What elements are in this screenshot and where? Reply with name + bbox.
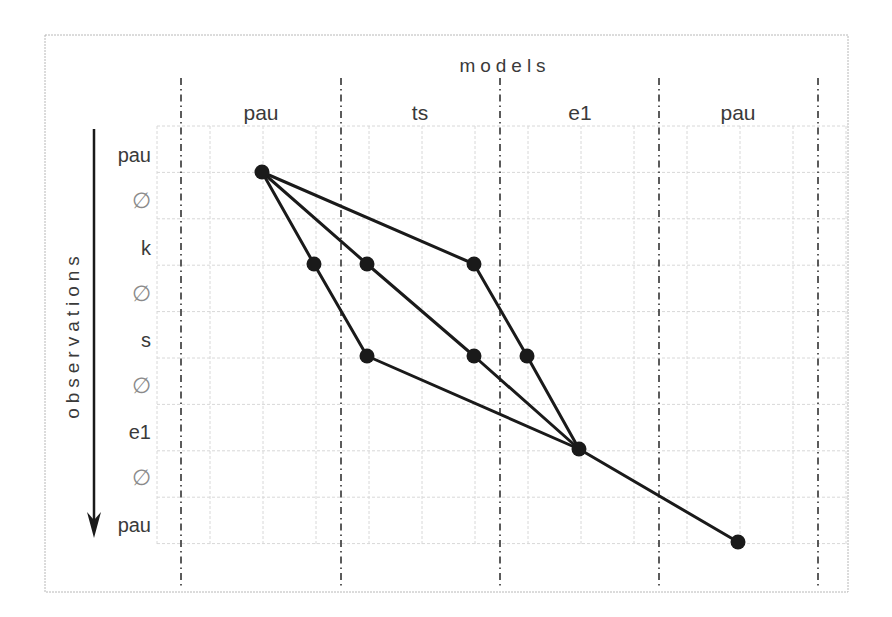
lattice-edge bbox=[527, 356, 579, 449]
row-label-empty: ∅ bbox=[132, 373, 151, 398]
column-label: e1 bbox=[568, 101, 591, 124]
y-axis-arrow bbox=[87, 129, 101, 538]
row-labels: pau∅k∅s∅e1∅pau bbox=[118, 144, 152, 536]
row-label-empty: ∅ bbox=[132, 188, 151, 213]
lattice-edge bbox=[262, 172, 474, 264]
lattice-node bbox=[731, 535, 746, 550]
y-axis-title: observations bbox=[62, 251, 83, 419]
lattice-edge bbox=[262, 172, 314, 264]
row-label: k bbox=[141, 237, 152, 259]
lattice-node bbox=[255, 165, 270, 180]
column-label: pau bbox=[720, 101, 755, 124]
column-label: pau bbox=[243, 101, 278, 124]
lattice-edge bbox=[367, 356, 579, 449]
row-label-empty: ∅ bbox=[132, 465, 151, 490]
row-label: pau bbox=[118, 144, 151, 166]
lattice-node bbox=[520, 349, 535, 364]
row-label: e1 bbox=[129, 421, 151, 443]
lattice-node bbox=[307, 257, 322, 272]
lattice-edge bbox=[262, 172, 367, 264]
row-label: pau bbox=[118, 514, 151, 536]
column-label: ts bbox=[412, 101, 428, 124]
column-separators bbox=[181, 78, 818, 586]
background-grid bbox=[157, 126, 848, 544]
row-label-empty: ∅ bbox=[132, 281, 151, 306]
alignment-lattice-diagram: models pautse1pau pau∅k∅s∅e1∅pau observa… bbox=[0, 0, 892, 617]
row-label: s bbox=[141, 329, 151, 351]
lattice-node bbox=[360, 349, 375, 364]
lattice-edge bbox=[474, 356, 579, 449]
lattice-node bbox=[467, 349, 482, 364]
lattice-node bbox=[467, 257, 482, 272]
lattice-edge bbox=[367, 264, 474, 356]
x-axis-title: models bbox=[459, 55, 550, 76]
lattice-node bbox=[360, 257, 375, 272]
lattice-node bbox=[572, 442, 587, 457]
